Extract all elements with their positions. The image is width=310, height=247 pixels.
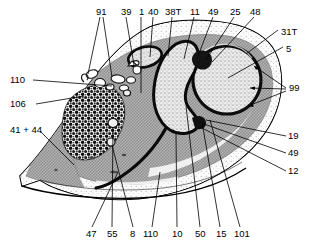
label-49-top: 49 [208, 7, 219, 17]
label-41-44: 41 + 44 [10, 125, 42, 135]
label-48: 48 [250, 7, 261, 17]
label-11: 11 [190, 7, 200, 17]
label-5: 5 [286, 44, 291, 54]
label-49-right: 49 [288, 148, 299, 158]
label-55: 55 [107, 229, 118, 239]
label-101: 101 [234, 229, 250, 239]
label-38T: 38T [165, 7, 181, 17]
label-8: 8 [130, 229, 135, 239]
label-31T: 31T [281, 27, 297, 37]
label-47: 47 [86, 229, 97, 239]
label-40: 40 [148, 7, 159, 17]
label-1: 1 [139, 7, 144, 17]
label-110-left: 110 [10, 75, 25, 85]
label-110-bottom: 110 [143, 229, 158, 239]
label-15: 15 [216, 229, 227, 239]
anatomy-illustration [0, 0, 310, 247]
label-106: 106 [10, 99, 26, 109]
label-39: 39 [121, 7, 132, 17]
figure-canvas: 91 39 1 40 38T 11 49 25 48 31T 5 99 19 4… [0, 0, 310, 247]
label-25: 25 [230, 7, 241, 17]
label-10: 10 [172, 229, 183, 239]
label-50: 50 [195, 229, 206, 239]
label-19: 19 [288, 131, 299, 141]
label-12: 12 [288, 166, 299, 176]
label-91: 91 [96, 7, 107, 17]
label-99: 99 [289, 83, 300, 93]
